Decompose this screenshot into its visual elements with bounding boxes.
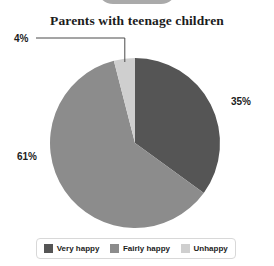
leader-line-unhappy [36, 38, 125, 62]
pie-svg [0, 0, 274, 266]
legend-item-fairly-happy[interactable]: Fairly happy [110, 244, 170, 253]
legend-item-very-happy[interactable]: Very happy [44, 244, 99, 253]
pie-value-label-fairly-happy: 61% [17, 151, 37, 162]
legend-swatch-fairly-happy [110, 244, 119, 253]
legend-label-very-happy: Very happy [57, 244, 100, 253]
chart-legend: Very happy Fairly happy Unhappy [36, 238, 236, 259]
pie-chart-figure: Parents with teenage children 35% 61% 4%… [0, 0, 274, 266]
legend-swatch-unhappy [181, 244, 190, 253]
legend-swatch-very-happy [44, 244, 53, 253]
pie-value-label-unhappy: 4% [14, 33, 28, 44]
pie-value-label-very-happy: 35% [231, 96, 251, 107]
legend-label-unhappy: Unhappy [194, 244, 228, 253]
legend-item-unhappy[interactable]: Unhappy [181, 244, 228, 253]
legend-label-fairly-happy: Fairly happy [123, 244, 170, 253]
